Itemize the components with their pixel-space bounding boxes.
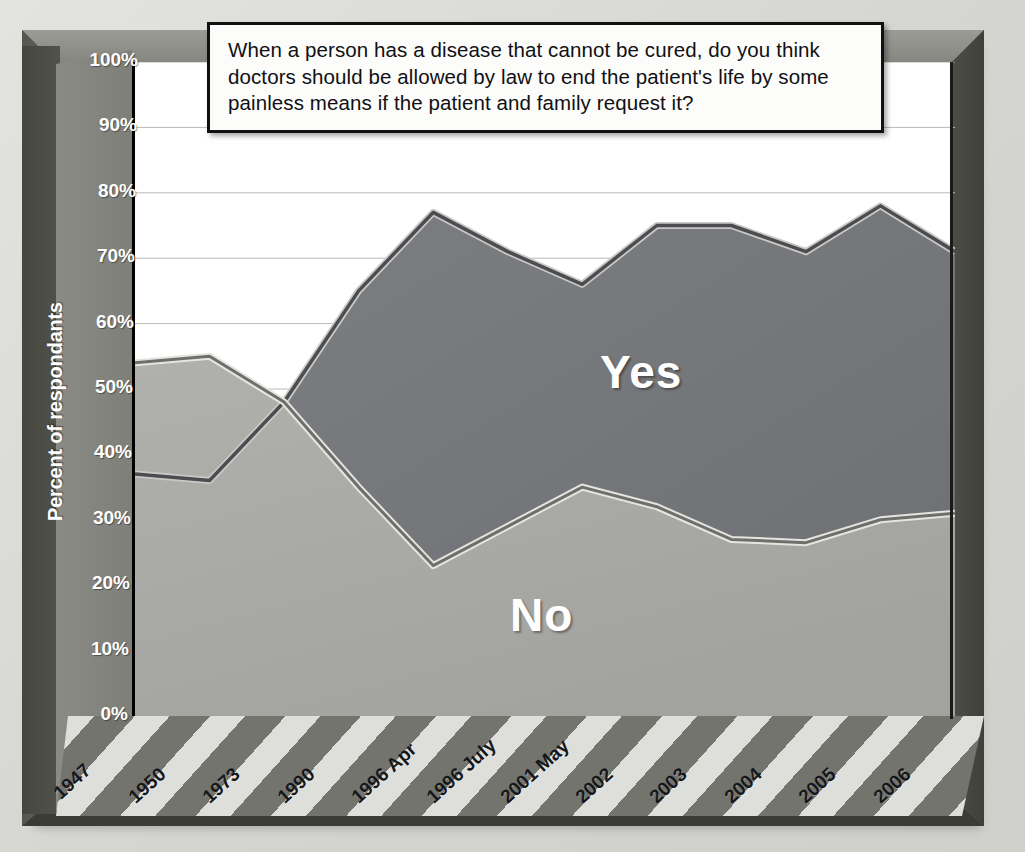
plot-right-border [950,62,953,719]
x-tick-label: 2001 May [497,735,575,808]
x-tick-label: 2004 [720,763,766,808]
x-tick-label: 1947 [49,759,95,804]
x-tick-label: 1996 Apr [347,738,421,808]
x-tick-label: 2002 [571,763,617,808]
chart-figure: Percent of respondants 0%10%20%30%40%50%… [0,0,1025,852]
question-callout-box: When a person has a disease that cannot … [207,22,884,133]
x-tick-label: 1996 July [422,734,500,808]
series-label-no: No [510,588,573,642]
question-title: When a person has a disease that cannot … [228,37,867,117]
x-tick-label: 2006 [869,763,915,808]
x-tick-label: 1950 [124,763,170,808]
x-tick-label: 1973 [198,763,244,808]
x-tick-label: 2003 [646,763,692,808]
x-tick-label: 1990 [273,763,319,808]
series-label-yes: Yes [600,345,682,399]
x-tick-label: 2005 [795,763,841,808]
